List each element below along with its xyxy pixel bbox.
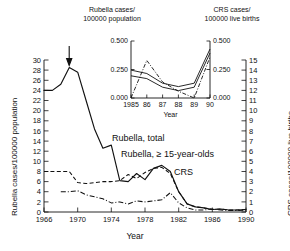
vaccine-introduction-arrow-icon — [67, 46, 72, 66]
svg-text:1970: 1970 — [69, 215, 86, 224]
inset-plot: 0.000 0.250 0.500 0.000 0.250 0.500 — [104, 36, 231, 118]
svg-text:0.250: 0.250 — [213, 66, 231, 73]
svg-text:28: 28 — [33, 66, 41, 75]
svg-text:0.500: 0.500 — [110, 37, 128, 44]
svg-text:15: 15 — [249, 56, 257, 65]
svg-text:0.500: 0.500 — [213, 37, 231, 44]
svg-text:1982: 1982 — [170, 215, 187, 224]
svg-text:88: 88 — [175, 101, 183, 108]
svg-text:87: 87 — [159, 101, 167, 108]
svg-text:1986: 1986 — [204, 215, 221, 224]
svg-text:14: 14 — [33, 137, 41, 146]
svg-text:86: 86 — [143, 101, 151, 108]
svg-text:90: 90 — [206, 101, 214, 108]
svg-text:1966: 1966 — [36, 215, 53, 224]
svg-text:20: 20 — [33, 106, 41, 115]
svg-text:0.000: 0.000 — [213, 94, 231, 101]
svg-text:10: 10 — [249, 106, 257, 115]
svg-text:6: 6 — [37, 177, 41, 186]
series-crs — [61, 191, 246, 211]
main-plot-svg: 0 2 4 6 8 10 12 14 16 18 20 22 24 26 28 … — [0, 0, 290, 251]
svg-text:8: 8 — [37, 167, 41, 176]
svg-text:4: 4 — [37, 187, 41, 196]
svg-text:6: 6 — [249, 147, 253, 156]
svg-text:2: 2 — [37, 198, 41, 207]
svg-text:26: 26 — [33, 76, 41, 85]
svg-text:24: 24 — [33, 86, 41, 95]
svg-text:10: 10 — [33, 157, 41, 166]
svg-text:22: 22 — [33, 96, 41, 105]
figure-root: Rubella cases/ 100000 population CRS cas… — [0, 0, 290, 251]
svg-text:7: 7 — [249, 137, 253, 146]
svg-text:3: 3 — [249, 177, 253, 186]
svg-text:5: 5 — [249, 157, 253, 166]
svg-text:11: 11 — [249, 96, 257, 105]
svg-text:13: 13 — [249, 76, 257, 85]
right-y-ticks: 0 1 2 3 4 5 6 7 8 9 10 11 12 13 14 15 — [242, 56, 258, 217]
series-rubella-15plus — [44, 167, 246, 210]
svg-text:1978: 1978 — [137, 215, 154, 224]
svg-text:89: 89 — [190, 101, 198, 108]
svg-text:0.250: 0.250 — [110, 66, 128, 73]
svg-text:4: 4 — [249, 167, 253, 176]
svg-text:2: 2 — [249, 187, 253, 196]
svg-text:12: 12 — [33, 147, 41, 156]
svg-text:1985: 1985 — [123, 101, 139, 108]
svg-text:16: 16 — [33, 127, 41, 136]
svg-text:14: 14 — [249, 66, 257, 75]
inset-x-axis-title: Year — [163, 111, 178, 118]
svg-text:9: 9 — [249, 116, 253, 125]
svg-text:18: 18 — [33, 116, 41, 125]
svg-text:30: 30 — [33, 56, 41, 65]
left-y-ticks: 0 2 4 6 8 10 12 14 16 18 20 22 24 26 28 … — [33, 56, 49, 217]
svg-text:1990: 1990 — [238, 215, 255, 224]
svg-text:1: 1 — [249, 198, 253, 207]
svg-text:1974: 1974 — [103, 215, 120, 224]
svg-text:8: 8 — [249, 127, 253, 136]
svg-text:12: 12 — [249, 86, 257, 95]
